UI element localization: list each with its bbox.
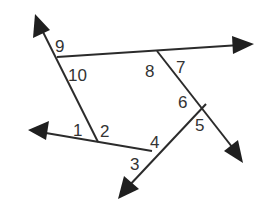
arrowhead-right-icon — [232, 36, 254, 54]
angle-label-6: 6 — [178, 93, 187, 112]
arrowhead-down-right-icon — [224, 140, 243, 163]
angle-label-7: 7 — [176, 58, 185, 77]
angle-label-4: 4 — [150, 133, 159, 152]
angle-diagram: 9 10 8 7 6 5 4 3 1 2 — [0, 0, 273, 218]
angle-label-10: 10 — [68, 66, 87, 85]
angle-label-3: 3 — [130, 155, 139, 174]
arrowhead-left-icon — [28, 121, 49, 140]
line-left-transversal — [41, 28, 98, 142]
angle-label-8: 8 — [145, 62, 154, 81]
angle-label-5: 5 — [195, 116, 204, 135]
line-bottom — [40, 132, 152, 151]
angle-label-1: 1 — [73, 121, 82, 140]
angle-label-2: 2 — [100, 122, 109, 141]
angle-label-9: 9 — [55, 37, 64, 56]
line-right-transversal — [157, 51, 236, 152]
arrowhead-up-left-icon — [33, 14, 50, 38]
line-top — [57, 45, 240, 57]
